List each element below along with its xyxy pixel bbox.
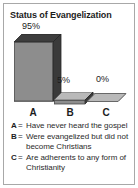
bar-value-A: 95%: [22, 21, 40, 31]
category-axis: A B C: [4, 107, 135, 120]
legend-text-A: Have never heard the gospel: [26, 121, 133, 131]
legend-item-C: C = Are adherents to any form of Christi…: [11, 153, 133, 173]
chart-legend: A = Have never heard the gospel B = Were…: [11, 121, 133, 174]
legend-equals-A: =: [18, 121, 26, 131]
legend-key-B: B: [11, 132, 18, 142]
bar-value-C: 0%: [96, 74, 109, 84]
bar-C: [87, 93, 127, 103]
category-label-B: B: [61, 107, 79, 118]
bar-value-B: 5%: [57, 75, 70, 85]
category-label-A: A: [24, 107, 42, 118]
legend-text-B: Were evangelized but did not become Chri…: [26, 132, 133, 152]
legend-text-C: Are adherents to any form of Christianit…: [26, 153, 133, 173]
plot-area: 95% 5% 0%: [4, 21, 135, 107]
legend-key-A: A: [11, 121, 18, 131]
legend-equals-B: =: [18, 132, 26, 142]
chart-title: Status of Evangelization: [10, 10, 112, 20]
legend-item-A: A = Have never heard the gospel: [11, 121, 133, 131]
chart-figure: Status of Evangelization 95%: [0, 0, 138, 188]
category-label-C: C: [97, 107, 115, 118]
legend-key-C: C: [11, 153, 18, 163]
chart-frame: Status of Evangelization 95%: [3, 3, 135, 185]
legend-item-B: B = Were evangelized but did not become …: [11, 132, 133, 152]
legend-equals-C: =: [18, 153, 26, 163]
